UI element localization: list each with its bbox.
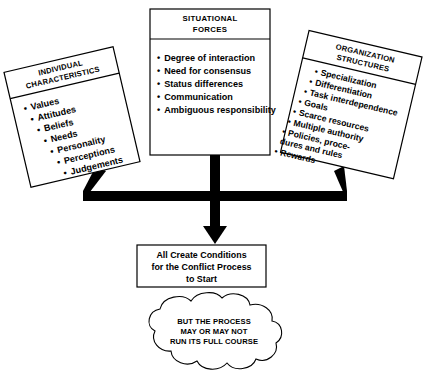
bullet-icon: • — [157, 66, 160, 76]
result-box-line1: All Create Conditions — [156, 250, 246, 260]
bullet-icon: • — [157, 79, 160, 89]
cloud-line1: BUT THE PROCESS — [177, 317, 251, 326]
center-box: SITUATIONAL FORCES •Degree of interactio… — [150, 9, 277, 155]
cloud-line3: RUN ITS FULL COURSE — [170, 337, 258, 346]
right-box: ORGANIZATION STRUCTURES •Specialization … — [274, 29, 422, 183]
list-item: •Communication — [157, 92, 233, 102]
list-item: •Need for consensus — [157, 66, 251, 76]
result-box: All Create Conditions for the Conflict P… — [137, 245, 266, 287]
list-item: •Status differences — [157, 79, 243, 89]
down-arrow-icon — [203, 201, 227, 244]
list-item: •Degree of interaction — [157, 53, 255, 63]
center-box-header-line1: SITUATIONAL — [182, 14, 237, 23]
diagram-canvas: INDIVIDUAL CHARACTERISTICS •Values •Atti… — [0, 0, 431, 383]
list-item: •Ambiguous responsibility — [157, 105, 277, 115]
bullet-icon: • — [157, 92, 160, 102]
cloud-line2: MAY OR MAY NOT — [180, 327, 247, 336]
left-box: INDIVIDUAL CHARACTERISTICS •Values •Atti… — [4, 47, 140, 187]
bullet-icon: • — [157, 53, 160, 63]
center-box-header-line2: FORCES — [193, 25, 227, 34]
result-box-line2: for the Conflict Process — [151, 262, 251, 272]
result-box-line3: to Start — [186, 274, 217, 284]
bullet-icon: • — [274, 146, 279, 156]
bullet-icon: • — [157, 105, 160, 115]
cloud-callout: BUT THE PROCESS MAY OR MAY NOT RUN ITS F… — [149, 293, 282, 370]
